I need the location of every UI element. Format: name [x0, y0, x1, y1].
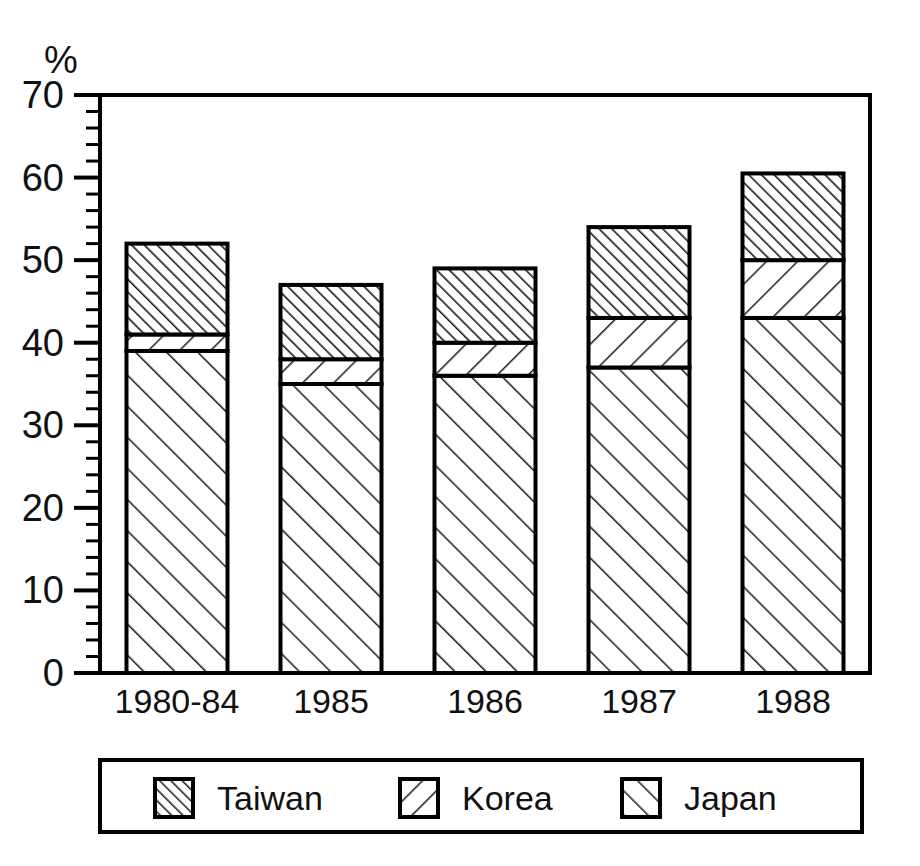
- stacked-bar-chart: % 010203040506070 1980-84198519861987198…: [0, 0, 920, 866]
- legend-label: Japan: [684, 779, 777, 817]
- legend-swatch-korea: [400, 779, 438, 817]
- legend-swatch-taiwan: [155, 779, 193, 817]
- legend-item-japan[interactable]: Japan: [622, 779, 777, 817]
- bar-group[interactable]: [743, 173, 844, 673]
- y-axis-tick-label: 50: [22, 239, 64, 281]
- bar-segment-korea[interactable]: [743, 260, 844, 318]
- bar-segment-japan[interactable]: [589, 367, 690, 673]
- bar-segment-japan[interactable]: [435, 376, 536, 673]
- bar-segment-korea[interactable]: [435, 343, 536, 376]
- legend: TaiwanKoreaJapan: [100, 760, 862, 832]
- bar-segment-taiwan[interactable]: [435, 268, 536, 342]
- y-axis-tick-label: 60: [22, 157, 64, 199]
- legend-item-taiwan[interactable]: Taiwan: [155, 779, 323, 817]
- bar-group[interactable]: [281, 285, 382, 673]
- bar-segment-korea[interactable]: [281, 359, 382, 384]
- bar-segment-taiwan[interactable]: [281, 285, 382, 359]
- legend-item-korea[interactable]: Korea: [400, 779, 553, 817]
- bar-segment-japan[interactable]: [743, 318, 844, 673]
- bar-segment-taiwan[interactable]: [127, 244, 228, 335]
- legend-label: Taiwan: [217, 779, 323, 817]
- y-axis-tick-label: 30: [22, 404, 64, 446]
- y-axis-tick-label: 10: [22, 569, 64, 611]
- y-axis-tick-label: 40: [22, 322, 64, 364]
- bar-segment-japan[interactable]: [127, 351, 228, 673]
- legend-label: Korea: [462, 779, 553, 817]
- legend-swatch-japan: [622, 779, 660, 817]
- bar-segment-japan[interactable]: [281, 384, 382, 673]
- bar-segment-taiwan[interactable]: [743, 173, 844, 260]
- x-axis-category-label: 1987: [601, 682, 677, 720]
- bar-segment-korea[interactable]: [589, 318, 690, 368]
- y-axis-tick-label: 20: [22, 487, 64, 529]
- bar-segment-korea[interactable]: [127, 334, 228, 351]
- bar-group[interactable]: [435, 268, 536, 673]
- bar-group[interactable]: [127, 244, 228, 673]
- chart-container: % 010203040506070 1980-84198519861987198…: [0, 0, 920, 866]
- x-axis-category-label: 1980-84: [115, 682, 240, 720]
- x-axis-category-label: 1986: [447, 682, 523, 720]
- bar-segment-taiwan[interactable]: [589, 227, 690, 318]
- x-axis-category-label: 1985: [293, 682, 369, 720]
- bar-group[interactable]: [589, 227, 690, 673]
- y-axis-tick-label: 70: [22, 74, 64, 116]
- x-axis-category-label: 1988: [755, 682, 831, 720]
- y-axis-tick-label: 0: [43, 652, 64, 694]
